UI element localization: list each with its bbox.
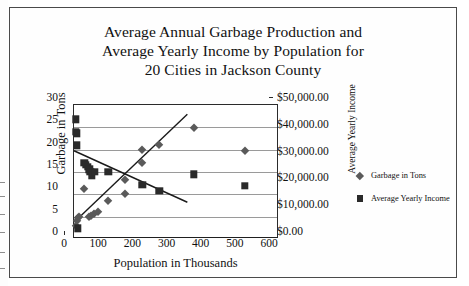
legend-item-garbage: Garbage in Tons [354,171,450,180]
y-tick-label-left: 20 [30,136,58,148]
y-tick-label-right: $40,000.00 [277,118,329,130]
y-tick-label-right: $30,000.00 [277,145,329,157]
y-tick-label-right: $50,000.00 [277,91,329,103]
legend-item-income: Average Yearly Income [354,194,450,203]
y-tick-label-left: 10 [30,180,58,192]
chart-title-line-1: Average Annual Garbage Production and [10,22,456,41]
data-point-square [73,129,80,136]
y-tick-mark-right [269,97,273,98]
x-axis-title: Population in Thousands [73,256,278,271]
data-point-square [91,168,98,175]
plot-area [73,104,278,238]
square-marker-icon [354,195,366,202]
y-tick-label-right: $10,000.00 [277,198,329,210]
scan-edge-artifacts [0,0,8,286]
legend-label-income: Average Yearly Income [371,194,450,203]
y-tick-label-left: 25 [30,113,58,125]
y-tick-label-left: 0 [30,225,58,237]
y-axis-title-right: Average Yearly Income [347,74,357,184]
x-tick-label: 200 [124,237,141,249]
x-tick-label: 600 [260,237,277,249]
y-tick-label-right: $0.00 [277,225,303,237]
data-point-square [72,116,79,123]
x-tick-label: 100 [90,237,107,249]
y-tick-label-left: 15 [30,158,58,170]
chart-title: Average Annual Garbage Production and Av… [10,22,456,79]
data-point-square [190,171,197,178]
x-tick-label: 500 [226,237,243,249]
y-tick-label-right: $20,000.00 [277,171,329,183]
chart-title-line-2: Average Yearly Income by Population for [10,41,456,60]
y-tick-label-left: 5 [30,203,58,215]
x-tick-label: 300 [158,237,175,249]
garbage-trendline [77,114,188,220]
y-tick-label-left: 30 [30,91,58,103]
x-tick-label: 0 [61,237,67,249]
legend-label-garbage: Garbage in Tons [371,171,426,180]
data-point-square [73,141,80,148]
data-point-square [139,181,146,188]
diamond-marker-icon [354,173,366,179]
data-point-square [241,182,248,189]
data-point-square [74,225,81,232]
data-point-square [156,187,163,194]
chart-title-line-3: 20 Cities in Jackson County [10,60,456,79]
figure-frame: Average Annual Garbage Production and Av… [9,7,457,278]
chart-legend: Garbage in Tons Average Yearly Income [354,171,450,217]
data-point-square [104,168,111,175]
x-tick-label: 400 [192,237,209,249]
x-tick-mark [64,231,65,235]
